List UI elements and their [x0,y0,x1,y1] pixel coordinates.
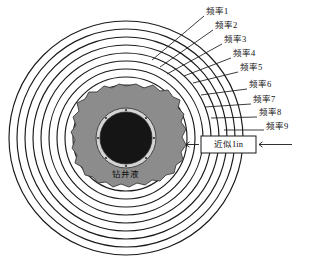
borehole-frequency-diagram: 频率1 频率2 频率3 频率4 频率5 频率6 频率7 频率8 频率9 钻井液 … [0,0,312,276]
leader-line-frequency-7 [205,104,251,107]
dimension-callout-label: 近似1in [201,140,256,149]
casing-stud [125,109,127,111]
casing-stud [145,117,147,119]
casing-stud [105,117,107,119]
diagram-canvas [0,0,312,276]
leader-line-frequency-5 [193,72,238,83]
frequency-label-5: 频率5 [240,63,262,72]
frequency-label-6: 频率6 [249,80,271,89]
frequency-label-1: 频率1 [206,7,228,16]
dimension-arrow-right [259,142,292,147]
casing-stud [153,137,155,139]
frequency-label-8: 频率8 [259,108,281,117]
casing-stud [105,157,107,159]
casing-stud [97,137,99,139]
dimension-arrow-left [186,142,199,147]
leader-line-frequency-2 [160,30,213,67]
casing-stud [125,165,127,167]
frequency-label-2: 频率2 [215,21,237,30]
frequency-label-7: 频率7 [253,95,275,104]
drilling-fluid-label: 钻井液 [112,170,139,179]
frequency-label-4: 频率4 [233,49,255,58]
leader-line-frequency-8 [211,117,257,118]
frequency-label-9: 频率9 [266,122,288,131]
casing-stud [145,157,147,159]
drill-pipe-core [100,112,152,164]
frequency-label-3: 频率3 [224,35,246,44]
leader-line-frequency-1 [152,16,204,60]
